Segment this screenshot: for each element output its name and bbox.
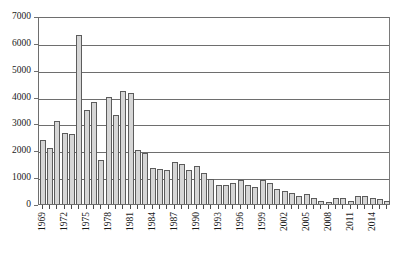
bar — [216, 185, 222, 204]
x-tick-mark — [181, 205, 182, 209]
bar — [150, 168, 156, 204]
bar — [194, 166, 200, 204]
x-tick-label: 1975 — [81, 212, 91, 231]
y-tick-label: 3000 — [12, 120, 31, 130]
bar — [76, 35, 82, 204]
x-tick-label: 1999 — [257, 212, 267, 231]
x-tick-mark — [247, 205, 248, 209]
x-tick-mark — [342, 205, 343, 209]
bar — [362, 196, 368, 204]
x-tick-label: 1969 — [37, 212, 47, 231]
x-tick-mark — [86, 205, 87, 209]
x-tick-mark — [335, 205, 336, 209]
x-tick-mark — [240, 205, 241, 209]
bar — [252, 187, 258, 204]
plot-area — [38, 17, 390, 205]
bar — [142, 153, 148, 204]
x-tick-mark — [269, 205, 270, 209]
bar — [223, 185, 229, 204]
x-tick-label: 2002 — [279, 212, 289, 231]
x-tick-label: 1972 — [59, 212, 69, 231]
bar — [164, 170, 170, 204]
bar — [69, 134, 75, 204]
bar — [62, 133, 68, 204]
bar — [333, 198, 339, 204]
bar — [311, 198, 317, 204]
bar — [260, 180, 266, 204]
bar — [91, 102, 97, 204]
bar — [355, 196, 361, 204]
x-tick-mark — [225, 205, 226, 209]
x-tick-mark — [350, 205, 351, 209]
x-tick-mark — [210, 205, 211, 209]
x-tick-mark — [78, 205, 79, 209]
y-tick-label: 4000 — [12, 93, 31, 103]
bar — [120, 91, 126, 204]
bar — [370, 198, 376, 204]
bar — [47, 148, 53, 204]
x-tick-mark — [291, 205, 292, 209]
x-tick-mark — [166, 205, 167, 209]
bar — [289, 193, 295, 204]
x-tick-mark — [71, 205, 72, 209]
bar — [282, 191, 288, 204]
x-tick-mark — [56, 205, 57, 209]
x-tick-mark — [364, 205, 365, 209]
x-tick-mark — [386, 205, 387, 209]
x-tick-mark — [49, 205, 50, 209]
x-tick-mark — [188, 205, 189, 209]
x-tick-mark — [262, 205, 263, 209]
bar — [98, 160, 104, 204]
x-tick-mark — [196, 205, 197, 209]
x-tick-mark — [320, 205, 321, 209]
x-tick-mark — [137, 205, 138, 209]
bar — [304, 194, 310, 204]
bar — [348, 201, 354, 204]
bar — [186, 170, 192, 204]
x-tick-label: 1984 — [147, 212, 157, 231]
bars-layer — [39, 18, 389, 204]
x-tick-label: 1978 — [103, 212, 113, 231]
bar — [172, 162, 178, 204]
x-tick-mark — [254, 205, 255, 209]
x-tick-label: 1996 — [235, 212, 245, 231]
x-tick-mark — [93, 205, 94, 209]
bar — [157, 169, 163, 204]
y-tick-label: 2000 — [12, 147, 31, 157]
x-tick-label: 1993 — [213, 212, 223, 231]
x-tick-mark — [298, 205, 299, 209]
x-tick-mark — [313, 205, 314, 209]
x-tick-mark — [108, 205, 109, 209]
x-tick-mark — [122, 205, 123, 209]
bar — [326, 202, 332, 204]
bar — [201, 173, 207, 204]
bar — [267, 183, 273, 204]
y-axis: 70006000500040003000200010000 — [0, 0, 38, 253]
bar — [113, 115, 119, 204]
x-tick-mark — [115, 205, 116, 209]
x-tick-label: 1990 — [191, 212, 201, 231]
x-tick-mark — [328, 205, 329, 209]
y-tick-label: 0 — [26, 200, 31, 210]
bar — [84, 110, 90, 204]
x-tick-mark — [144, 205, 145, 209]
x-tick-mark — [357, 205, 358, 209]
x-tick-mark — [218, 205, 219, 209]
x-tick-mark — [232, 205, 233, 209]
bar — [179, 164, 185, 204]
bar — [40, 140, 46, 204]
bar — [54, 121, 60, 204]
x-tick-mark — [42, 205, 43, 209]
x-tick-mark — [174, 205, 175, 209]
bar — [377, 199, 383, 204]
x-tick-mark — [306, 205, 307, 209]
x-tick-mark — [152, 205, 153, 209]
x-tick-mark — [284, 205, 285, 209]
x-tick-label: 2014 — [367, 212, 377, 231]
x-tick-mark — [372, 205, 373, 209]
y-tick-label: 6000 — [12, 39, 31, 49]
x-axis: 1969197219751978198119841987199019931996… — [38, 205, 390, 253]
bar — [245, 185, 251, 204]
x-tick-label: 1981 — [125, 212, 135, 231]
bar-chart: 70006000500040003000200010000 1969197219… — [0, 0, 415, 253]
